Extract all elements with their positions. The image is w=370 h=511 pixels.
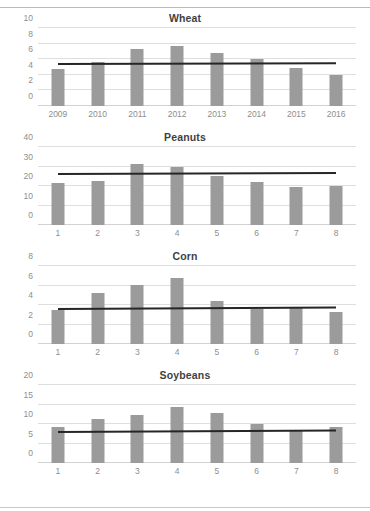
bar-slot: [277, 147, 317, 225]
y-axis-tick-label: 5: [28, 429, 33, 439]
chart-panel-wheat: Wheat02468102009201020112012201320142015…: [0, 9, 370, 128]
bar-slot: [277, 266, 317, 344]
bar[interactable]: [290, 307, 303, 344]
bar[interactable]: [171, 407, 184, 463]
bar-slot: [316, 385, 356, 463]
bar-series: [38, 147, 356, 225]
chart-title: Soybeans: [0, 369, 370, 381]
bar-slot: [316, 147, 356, 225]
top-divider-rule: [0, 7, 370, 8]
y-axis-tick-label: 6: [28, 44, 33, 54]
bar-slot: [237, 28, 277, 106]
bar-slot: [157, 385, 197, 463]
bar[interactable]: [290, 68, 303, 106]
x-axis-tick-label: 5: [197, 228, 237, 238]
bar[interactable]: [131, 285, 144, 344]
bar[interactable]: [91, 293, 104, 344]
bar[interactable]: [171, 278, 184, 344]
bar-slot: [118, 385, 158, 463]
y-axis-tick-label: 2: [28, 75, 33, 85]
bar[interactable]: [51, 310, 64, 344]
y-axis-tick-label: 20: [24, 370, 33, 380]
x-axis-tick-label: 5: [197, 347, 237, 357]
plot-area: 02468: [38, 266, 356, 344]
x-axis-tick-label: 2013: [197, 109, 237, 119]
x-axis-tick-label: 3: [118, 228, 158, 238]
x-axis-tick-label: 3: [118, 347, 158, 357]
bar-slot: [78, 28, 118, 106]
bar-slot: [38, 147, 78, 225]
y-axis-tick-label: 0: [28, 91, 33, 101]
bar[interactable]: [330, 75, 343, 106]
bar-slot: [277, 28, 317, 106]
bar-slot: [277, 385, 317, 463]
bar[interactable]: [91, 181, 104, 225]
x-axis-tick-label: 7: [277, 347, 317, 357]
bar[interactable]: [171, 46, 184, 106]
bar-slot: [38, 266, 78, 344]
x-axis-tick-label: 8: [316, 347, 356, 357]
bar-slot: [157, 266, 197, 344]
chart-page: Wheat02468102009201020112012201320142015…: [0, 0, 370, 511]
x-axis-tick-label: 3: [118, 466, 158, 476]
bar[interactable]: [250, 59, 263, 106]
x-axis-tick-label: 2011: [118, 109, 158, 119]
x-axis-tick-label: 8: [316, 228, 356, 238]
x-axis-tick-label: 6: [237, 228, 277, 238]
bar-slot: [237, 147, 277, 225]
bar[interactable]: [330, 186, 343, 225]
bar[interactable]: [131, 49, 144, 106]
chart-title: Wheat: [0, 12, 370, 24]
bar-series: [38, 28, 356, 106]
bar[interactable]: [210, 53, 223, 106]
x-axis-tick-label: 2009: [38, 109, 78, 119]
bar[interactable]: [290, 431, 303, 463]
bar-slot: [237, 266, 277, 344]
bar[interactable]: [131, 415, 144, 463]
bar-slot: [118, 266, 158, 344]
bar[interactable]: [250, 309, 263, 344]
bar[interactable]: [91, 62, 104, 106]
y-axis-tick-label: 10: [24, 13, 33, 23]
x-axis-tick-label: 1: [38, 347, 78, 357]
bar[interactable]: [330, 427, 343, 463]
bar[interactable]: [290, 187, 303, 225]
x-axis-labels: 12345678: [38, 466, 356, 482]
bar[interactable]: [51, 69, 64, 106]
y-axis-tick-label: 0: [28, 210, 33, 220]
chart-panel-corn: Corn0246812345678: [0, 247, 370, 366]
x-axis-tick-label: 6: [237, 466, 277, 476]
chart-panel-peanuts: Peanuts01020304012345678: [0, 128, 370, 247]
bar-slot: [197, 147, 237, 225]
y-axis-tick-label: 10: [24, 409, 33, 419]
bar-slot: [157, 147, 197, 225]
bar-series: [38, 385, 356, 463]
chart-title: Corn: [0, 250, 370, 262]
x-axis-tick-label: 7: [277, 228, 317, 238]
x-axis-tick-label: 4: [157, 228, 197, 238]
chart-panel-soybeans: Soybeans0510152012345678: [0, 366, 370, 493]
bar[interactable]: [91, 419, 104, 463]
plot-area: 010203040: [38, 147, 356, 225]
y-axis-tick-label: 6: [28, 271, 33, 281]
y-axis-tick-label: 4: [28, 60, 33, 70]
bar-slot: [316, 28, 356, 106]
bar-slot: [157, 28, 197, 106]
bar[interactable]: [330, 312, 343, 344]
bar-slot: [237, 385, 277, 463]
y-axis-tick-label: 40: [24, 132, 33, 142]
bar[interactable]: [210, 413, 223, 463]
y-axis-tick-label: 20: [24, 171, 33, 181]
x-axis-labels: 12345678: [38, 347, 356, 363]
bar[interactable]: [250, 182, 263, 225]
x-axis-tick-label: 2: [78, 466, 118, 476]
bar-slot: [316, 266, 356, 344]
bar[interactable]: [171, 167, 184, 226]
bar[interactable]: [210, 176, 223, 225]
y-axis-tick-label: 8: [28, 251, 33, 261]
bar[interactable]: [51, 183, 64, 225]
y-axis-tick-label: 0: [28, 448, 33, 458]
bar-series: [38, 266, 356, 344]
bar-slot: [118, 28, 158, 106]
y-axis-tick-label: 10: [24, 191, 33, 201]
